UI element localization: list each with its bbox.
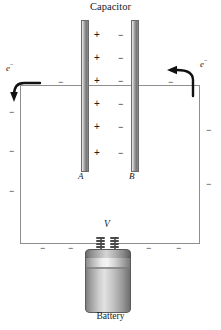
plate-b-charge: − — [118, 31, 123, 40]
battery-label: Battery — [0, 312, 221, 322]
plate-b-charge: − — [118, 149, 123, 158]
wire-charge-right: − — [206, 180, 211, 189]
plate-a-charge: + — [94, 30, 100, 40]
electron-label-left-superscript: − — [10, 61, 14, 68]
figure-title: Capacitor — [0, 2, 221, 13]
wire-charge-left: − — [9, 187, 14, 196]
battery-terminal-left-coil — [96, 246, 105, 248]
wire-charge-right: − — [206, 126, 211, 135]
battery-label-band — [86, 258, 130, 267]
wire-charge-left: − — [9, 108, 14, 117]
plate-a-label: A — [78, 172, 84, 181]
capacitor-plate-a — [81, 20, 89, 172]
plate-b-charge: − — [118, 54, 123, 63]
plate-a-charge: + — [94, 76, 100, 86]
electron-label-right: e− — [200, 58, 208, 69]
battery-terminal-right-coil — [110, 246, 119, 248]
capacitor-circuit-figure: Capacitor A B + + + + + + − − − − − − − … — [0, 0, 221, 330]
battery-terminal-left-coil — [96, 243, 105, 245]
battery-terminal-left-coil — [96, 240, 105, 242]
plate-b-charge: − — [118, 100, 123, 109]
battery-terminal-right-coil — [110, 240, 119, 242]
battery — [85, 243, 131, 313]
voltage-label: V — [104, 220, 110, 230]
wire-charge-bottom: − — [146, 244, 151, 253]
battery-terminal-left-coil — [96, 237, 105, 239]
electron-label-right-superscript: − — [204, 57, 208, 64]
wire-charge-top: − — [58, 78, 63, 87]
plate-a-charge: + — [94, 53, 100, 63]
wire-charge-left: − — [9, 147, 14, 156]
wire-segment-left — [20, 85, 21, 244]
plate-b-label: B — [129, 172, 135, 181]
battery-terminal-right-coil — [110, 237, 119, 239]
plate-a-charge: + — [94, 99, 100, 109]
wire-charge-bottom: − — [40, 244, 45, 253]
electron-label-left: e− — [6, 62, 14, 73]
capacitor-plate-b — [131, 20, 139, 172]
plate-b-charge: − — [118, 123, 123, 132]
plate-a-charge: + — [94, 148, 100, 158]
battery-label-band-shadow — [86, 267, 130, 269]
wire-charge-bottom: − — [176, 244, 181, 253]
plate-a-charge: + — [94, 122, 100, 132]
wire-segment-right — [199, 85, 200, 244]
plate-b-charge: − — [118, 77, 123, 86]
battery-terminal-right-coil — [110, 243, 119, 245]
electron-flow-arrow-right — [163, 56, 203, 98]
wire-charge-bottom: − — [68, 244, 73, 253]
